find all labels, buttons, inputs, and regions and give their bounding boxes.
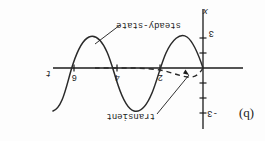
y-tick-label-3: 3 (209, 28, 214, 37)
x-tick-label-4: 4 (115, 72, 120, 81)
x-tick-label-6: 6 (72, 72, 77, 81)
x-tick-label-2: 2 (158, 72, 163, 81)
steady-state-annotation: steady-state (116, 20, 181, 29)
rotated-figure-content: 2 4 6 t x 3 -3 transient steady-state (b… (0, 0, 265, 141)
transient-annotation: transient (106, 111, 155, 120)
y-axis-name-label: x (203, 6, 208, 15)
x-axis-name-label: t (46, 68, 51, 77)
panel-label: (b) (239, 107, 254, 123)
transient-arrowhead (183, 70, 189, 76)
figure-panel: 2 4 6 t x 3 -3 transient steady-state (b… (0, 0, 265, 141)
y-tick-label-neg3: -3 (207, 108, 218, 117)
